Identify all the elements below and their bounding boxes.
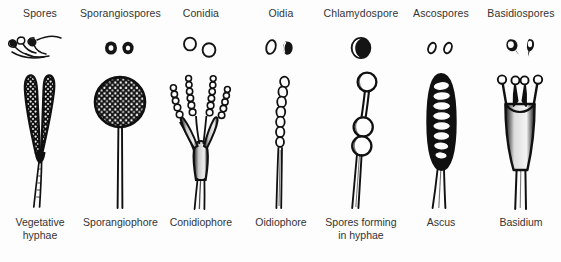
structure-sporangiophore xyxy=(80,70,161,212)
spore-sample-conidia xyxy=(161,26,241,70)
column-header-ascospores: Ascospores xyxy=(401,0,481,26)
spore-sample-chlamydospore xyxy=(321,26,401,70)
branched-vegetative-hypha-icon xyxy=(9,70,71,212)
structure-label-spores-forming-in-hyphae: Spores forming in hyphae xyxy=(321,212,401,262)
thick-walled-round-spore-icon xyxy=(346,34,376,62)
structure-vegetative-hyphae xyxy=(0,70,80,212)
column-header-sporangiospores: Sporangiospores xyxy=(80,0,161,26)
structure-label-vegetative-hyphae: Vegetative hyphae xyxy=(0,212,80,262)
structure-conidiophore xyxy=(161,70,241,212)
two-apiculate-teardrop-spores-icon xyxy=(498,35,544,61)
sporangium-on-stalk-icon xyxy=(92,70,148,212)
club-basidium-with-four-sterigmata-icon xyxy=(489,70,553,212)
branched-conidiophore-with-spore-chains-icon xyxy=(164,70,238,212)
column-header-oidia: Oidia xyxy=(241,0,321,26)
structure-ascus xyxy=(401,70,481,212)
spore-sample-sporangiospores xyxy=(80,26,161,70)
structure-label-oidiophore: Oidiophore xyxy=(241,212,321,262)
fungal-spore-structures-figure: Spores Sporangiospores Conidia Oidia Chl… xyxy=(0,0,561,262)
spore-sample-spores xyxy=(0,26,80,70)
spore-sample-ascospores xyxy=(401,26,481,70)
two-small-oval-spores-icon xyxy=(419,38,463,58)
structure-basidium xyxy=(481,70,561,212)
structure-oidiophore xyxy=(241,70,321,212)
structure-label-ascus: Ascus xyxy=(401,212,481,262)
two-oval-barrel-spores-icon xyxy=(259,36,303,60)
two-open-round-spores-icon xyxy=(178,35,224,61)
structure-label-sporangiophore: Sporangiophore xyxy=(80,212,161,262)
spore-sample-oidia xyxy=(241,26,321,70)
structure-label-conidiophore: Conidiophore xyxy=(161,212,241,262)
column-header-chlamydospore: Chlamydospore xyxy=(321,0,401,26)
two-filled-round-spores-icon xyxy=(98,37,142,59)
column-header-conidia: Conidia xyxy=(161,0,241,26)
hyphal-fragments-with-spores-icon xyxy=(4,31,76,65)
filament-with-oidia-chain-icon xyxy=(259,70,303,212)
spore-sample-basidiospores xyxy=(481,26,561,70)
column-header-basidiospores: Basidiospores xyxy=(481,0,561,26)
hypha-with-three-chlamydospores-icon xyxy=(336,70,386,212)
column-header-spores: Spores xyxy=(0,0,80,26)
structure-spores-forming-in-hyphae xyxy=(321,70,401,212)
ascus-sac-with-ascospores-icon xyxy=(415,70,467,212)
structure-label-basidium: Basidium xyxy=(481,212,561,262)
